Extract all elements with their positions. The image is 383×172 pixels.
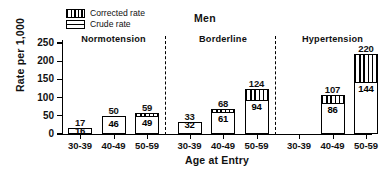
x-tick <box>333 134 334 139</box>
x-tick <box>299 134 300 139</box>
bar <box>354 54 378 134</box>
bar-corrected-segment <box>355 55 377 83</box>
x-tick-label: 50-59 <box>344 140 383 151</box>
x-tick <box>366 134 367 139</box>
y-tick-label-0: 0 <box>28 128 54 139</box>
y-tick-label-100: 100 <box>28 92 54 103</box>
bar-value-corrected: 220 <box>346 43 383 54</box>
legend-swatch-crude-icon <box>66 20 85 29</box>
y-tick-label-50: 50 <box>28 110 54 121</box>
x-tick-label: 50-59 <box>235 140 279 151</box>
bar-value-corrected: 124 <box>237 78 277 89</box>
y-tick-label-150: 150 <box>28 73 54 84</box>
y-tick-150 <box>57 79 63 80</box>
x-axis-line <box>62 134 372 135</box>
legend-swatch-corrected-icon <box>66 9 85 18</box>
y-tick-250 <box>57 42 63 43</box>
y-axis-label: Rate per 1,000 <box>14 7 28 103</box>
chart-title: Men <box>150 12 260 24</box>
x-tick <box>223 134 224 139</box>
chart-legend: Corrected rate Crude rate <box>66 9 145 31</box>
x-tick-label: 50-59 <box>125 140 169 151</box>
y-tick-100 <box>57 97 63 98</box>
group-header-normotension: Normotension <box>68 34 159 44</box>
bar-value-crude: 61 <box>203 113 243 124</box>
legend-label-corrected: Corrected rate <box>90 9 145 18</box>
x-axis-label: Age at Entry <box>62 154 372 166</box>
legend-label-crude: Crude rate <box>90 20 131 29</box>
x-tick <box>190 134 191 139</box>
bar-corrected-segment <box>322 96 344 104</box>
group-header-borderline: Borderline <box>178 34 269 44</box>
y-tick-label-200: 200 <box>28 55 54 66</box>
bar-value-crude: 86 <box>313 104 353 115</box>
bar-value-crude: 144 <box>346 83 383 94</box>
x-tick <box>80 134 81 139</box>
x-tick <box>147 134 148 139</box>
x-tick <box>257 134 258 139</box>
y-tick-200 <box>57 61 63 62</box>
x-tick <box>114 134 115 139</box>
bar-value-corrected: 59 <box>127 102 167 113</box>
bar-value-crude: 49 <box>127 117 167 128</box>
legend-item-crude: Crude rate <box>66 20 145 29</box>
bar-corrected-segment <box>246 90 268 101</box>
y-tick-label-250: 250 <box>28 37 54 48</box>
legend-item-corrected: Corrected rate <box>66 9 145 18</box>
bar-value-crude: 94 <box>237 101 277 112</box>
